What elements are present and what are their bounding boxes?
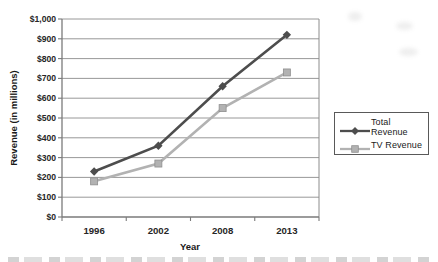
y-tick-label: $200 (37, 172, 56, 182)
data-point-square (91, 178, 98, 185)
data-point-square (219, 105, 226, 112)
total-revenue-line (94, 35, 287, 172)
data-point-diamond (351, 127, 359, 135)
legend-marker-svg (340, 144, 370, 154)
y-tick-label: $100 (37, 192, 56, 202)
x-tick-label: 2002 (148, 225, 169, 236)
y-tick-label: $1,000 (30, 14, 57, 24)
tv-revenue-line-marker-icon (340, 140, 370, 150)
y-tick-label: $800 (37, 54, 56, 64)
data-point-diamond (90, 167, 98, 175)
x-axis-title: Year (180, 241, 200, 252)
data-point-square (155, 160, 162, 167)
y-tick-label: $400 (37, 133, 56, 143)
legend-item-tv-revenue: TV Revenue (340, 140, 428, 150)
y-axis-title: Revenue (in millions) (8, 70, 19, 166)
x-tick-label: 2008 (212, 225, 234, 236)
x-tick-label: 2013 (276, 225, 297, 236)
y-tick-label: $300 (37, 153, 56, 163)
total-revenue-line-marker-icon (340, 122, 370, 132)
legend-marker-svg (340, 126, 370, 136)
cropped-caption-smear (8, 257, 432, 262)
legend-item-total-revenue: Total Revenue (340, 117, 428, 137)
y-tick-label: $700 (37, 73, 56, 83)
scan-smudge (348, 12, 362, 21)
legend-label-total-revenue: Total Revenue (371, 117, 428, 137)
scan-smudge (399, 48, 418, 56)
chart-screenshot: $0$100$200$300$400$500$600$700$800$900$1… (0, 0, 438, 262)
scan-smudge (396, 22, 413, 30)
legend-label-tv-revenue: TV Revenue (371, 140, 422, 150)
legend: Total Revenue TV Revenue (334, 112, 429, 155)
y-tick-label: $900 (37, 34, 56, 44)
tv-revenue-line (94, 72, 287, 181)
data-point-square (352, 146, 359, 153)
data-point-square (283, 69, 290, 76)
y-tick-label: $0 (46, 212, 56, 222)
y-tick-label: $500 (37, 113, 56, 123)
y-tick-label: $600 (37, 93, 56, 103)
x-tick-label: 1996 (83, 225, 104, 236)
